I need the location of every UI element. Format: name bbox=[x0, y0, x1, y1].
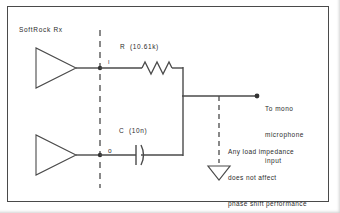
amplifier-triangle-bottom-icon bbox=[36, 135, 76, 175]
capacitor-value-label: C (10n) bbox=[119, 127, 147, 136]
schematic-screen: SoftRock Rx R (10.61k) C (10n) I o To mo… bbox=[0, 0, 340, 213]
node-label-bottom: o bbox=[108, 147, 112, 156]
resistor-value-label: R (10.61k) bbox=[120, 43, 159, 52]
output-terminal-dot bbox=[255, 94, 260, 99]
softrock-section-label: SoftRock Rx bbox=[19, 26, 63, 35]
resistor-zigzag-icon bbox=[142, 62, 172, 74]
output-annotation-line-1: To mono bbox=[265, 105, 304, 114]
node-label-top: I bbox=[108, 59, 110, 66]
load-note-line-2: does not affect bbox=[228, 174, 307, 183]
load-note-line-1: Any load impedance bbox=[228, 148, 307, 157]
ground-triangle-icon bbox=[208, 166, 230, 180]
load-note-line-3: phase shift performance bbox=[228, 200, 307, 209]
amplifier-triangle-top-icon bbox=[36, 48, 76, 88]
load-impedance-note: Any load impedance does not affect phase… bbox=[228, 130, 307, 213]
